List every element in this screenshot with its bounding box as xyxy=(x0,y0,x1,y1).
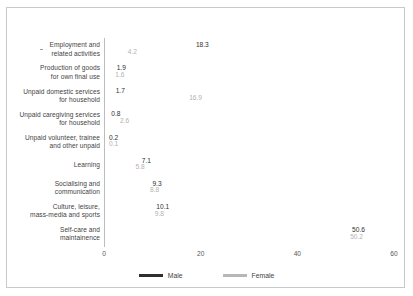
bar-value-label: 5.8 xyxy=(136,163,145,172)
legend-swatch-female-icon xyxy=(223,274,247,276)
bar-female[interactable]: 8.8 xyxy=(105,189,148,193)
bar-male[interactable]: 7.1 xyxy=(105,159,139,163)
bar-group: Learning7.15.8 xyxy=(104,154,394,177)
bar-male[interactable]: 18.3 xyxy=(105,44,193,48)
bar-group: Employment and related activities18.34.2 xyxy=(104,38,394,61)
bar-value-label: 8.8 xyxy=(150,186,159,195)
bar-value-label: 2.6 xyxy=(120,117,129,126)
legend-item-male[interactable]: Male xyxy=(139,272,183,279)
bar-male[interactable]: 1.7 xyxy=(105,90,113,94)
x-axis-tick: 40 xyxy=(294,250,301,257)
bar-chart-plot-area: Employment and related activities18.34.2… xyxy=(104,38,394,246)
bar-group: Culture, leisure, mass-media and sports1… xyxy=(104,200,394,223)
bar-group: Production of goods for own final use1.9… xyxy=(104,61,394,84)
category-label: Self-care and maintainence xyxy=(0,226,100,242)
x-axis-tick: 20 xyxy=(197,250,204,257)
bar-female[interactable]: 5.8 xyxy=(105,166,133,170)
bar-female[interactable]: 0.1 xyxy=(105,143,107,147)
bar-value-label: 4.2 xyxy=(128,48,137,57)
bar-male[interactable]: 0.2 xyxy=(105,136,107,140)
category-label: Unpaid caregiving services for household xyxy=(0,111,100,127)
bar-value-label: 0.1 xyxy=(109,140,118,149)
x-axis-tick: 0 xyxy=(102,250,106,257)
category-label: Production of goods for own final use xyxy=(0,64,100,80)
legend-label-male: Male xyxy=(168,272,183,279)
x-axis-tick-labels: 0204060 xyxy=(104,250,394,260)
bar-group: Self-care and maintainence50.650.2 xyxy=(104,223,394,246)
category-label: Culture, leisure, mass-media and sports xyxy=(0,203,100,219)
legend-swatch-male-icon xyxy=(139,274,163,276)
category-label: Unpaid volunteer, trainee and other unpa… xyxy=(0,134,100,150)
bar-female[interactable]: 2.6 xyxy=(105,119,118,123)
bar-group: Socialising and communication9.38.8 xyxy=(104,177,394,200)
bar-female[interactable]: 9.8 xyxy=(105,212,152,216)
bar-group: Unpaid domestic services for household1.… xyxy=(104,84,394,107)
bar-value-label: 9.8 xyxy=(155,210,164,219)
bar-male[interactable]: 0.8 xyxy=(105,113,109,117)
bar-value-label: 1.7 xyxy=(116,87,125,96)
category-label: Unpaid domestic services for household xyxy=(0,88,100,104)
bar-female[interactable]: 16.9 xyxy=(105,96,187,100)
bar-male[interactable]: 50.6 xyxy=(105,228,350,232)
legend-item-female[interactable]: Female xyxy=(223,272,275,279)
bar-male[interactable]: 9.3 xyxy=(105,182,150,186)
bar-female[interactable]: 4.2 xyxy=(105,50,125,54)
category-label: Socialising and communication xyxy=(0,180,100,196)
bar-value-label: 16.9 xyxy=(189,94,202,103)
category-label: Learning xyxy=(0,161,100,169)
bar-female[interactable]: 50.2 xyxy=(105,235,348,239)
bar-male[interactable]: 10.1 xyxy=(105,205,154,209)
bar-value-label: 1.6 xyxy=(115,71,124,80)
category-label: Employment and related activities xyxy=(0,41,100,57)
bar-male[interactable]: 1.9 xyxy=(105,67,114,71)
x-axis-tick: 60 xyxy=(390,250,397,257)
bar-value-label: 18.3 xyxy=(196,41,209,50)
chart-legend: Male Female xyxy=(0,272,413,279)
bar-value-label: 50.2 xyxy=(350,233,363,242)
bar-female[interactable]: 1.6 xyxy=(105,73,113,77)
bar-group: Unpaid volunteer, trainee and other unpa… xyxy=(104,130,394,153)
bar-group: Unpaid caregiving services for household… xyxy=(104,107,394,130)
legend-label-female: Female xyxy=(252,272,275,279)
